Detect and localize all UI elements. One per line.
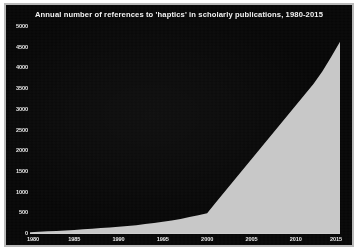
y-axis-tick-2000: 2000 (16, 147, 28, 153)
x-axis-tick-1995: 1995 (157, 236, 169, 242)
y-axis-tick-1000: 1000 (16, 189, 28, 195)
y-axis-tick-2500: 2500 (16, 127, 28, 133)
x-axis-tick-2015: 2015 (330, 236, 342, 242)
x-axis-tick-1980: 1980 (27, 236, 39, 242)
x-axis-tick-2005: 2005 (245, 236, 257, 242)
y-axis-tick-labels: 0500100015002000250030003500400045005000 (6, 26, 30, 233)
chart-title: Annual number of references to 'haptics'… (6, 10, 352, 19)
x-axis-line (30, 233, 340, 234)
x-axis-tick-labels: 19801985199019952000200520102015 (30, 236, 340, 245)
y-axis-tick-500: 500 (19, 209, 28, 215)
x-axis-tick-2000: 2000 (201, 236, 213, 242)
y-axis-tick-4500: 4500 (16, 44, 28, 50)
chart-root: Annual number of references to 'haptics'… (0, 0, 358, 251)
chart-canvas: Annual number of references to 'haptics'… (6, 5, 352, 245)
y-axis-tick-4000: 4000 (16, 64, 28, 70)
y-axis-tick-3000: 3000 (16, 106, 28, 112)
plot-area (30, 26, 340, 233)
x-axis-tick-1985: 1985 (68, 236, 80, 242)
y-axis-tick-1500: 1500 (16, 168, 28, 174)
area-chart-svg (30, 26, 340, 233)
chart-frame: Annual number of references to 'haptics'… (4, 3, 354, 247)
y-axis-tick-3500: 3500 (16, 85, 28, 91)
x-axis-tick-1990: 1990 (113, 236, 125, 242)
area-series-haptics (30, 42, 340, 233)
y-axis-tick-5000: 5000 (16, 23, 28, 29)
x-axis-tick-2010: 2010 (290, 236, 302, 242)
